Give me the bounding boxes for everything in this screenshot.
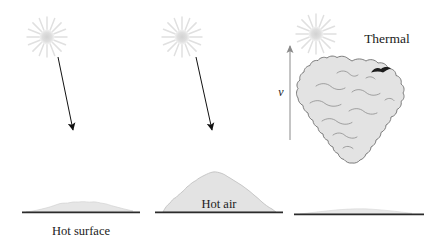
thermal-label: Thermal [364, 31, 410, 46]
sun-starburst-icon [162, 17, 202, 57]
velocity-label: v [278, 85, 284, 99]
figure-canvas: Hot surface Hot air v Thermal [0, 0, 430, 246]
sun-starburst-icon [296, 14, 336, 54]
sun-starburst-icon [27, 17, 67, 57]
hot-air-label: Hot air [201, 197, 237, 211]
hot-surface-label: Hot surface [52, 224, 110, 238]
